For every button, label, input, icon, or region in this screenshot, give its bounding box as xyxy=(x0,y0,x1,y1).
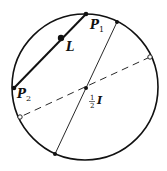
point-bottom-end xyxy=(53,152,57,156)
label-p2: P2 xyxy=(16,87,31,103)
point-l xyxy=(58,35,64,41)
point-p1 xyxy=(84,12,89,17)
point-center xyxy=(84,86,88,90)
point-p2 xyxy=(12,86,17,91)
label-half-numerator: 1 xyxy=(90,94,94,102)
label-p1: P1 xyxy=(89,18,104,34)
label-l: L xyxy=(65,40,74,54)
open-point-right xyxy=(148,55,152,59)
label-i: I xyxy=(96,94,103,107)
label-half-denominator: 2 xyxy=(90,102,94,110)
chord-diagram: P1 P2 L 1 2 I xyxy=(0,0,167,171)
chord-p1-p2 xyxy=(14,14,86,88)
point-top-end xyxy=(115,20,119,24)
open-point-left xyxy=(18,115,22,119)
